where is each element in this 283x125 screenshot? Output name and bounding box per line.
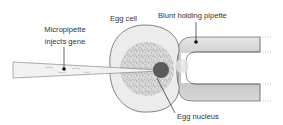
egg-nucleus-label: Egg nucleus: [177, 112, 219, 121]
holding-pipette: [178, 37, 272, 101]
holding-pipette-label: Blunt holding pipette: [158, 11, 227, 20]
egg-cell-label: Egg cell: [110, 14, 137, 23]
micropipette-label-line1: Micropipette: [36, 25, 94, 34]
micropipette-label: Micropipette injects gene: [36, 25, 94, 46]
micropipette-label-line2: injects gene: [36, 37, 94, 46]
microinjection-diagram: [0, 0, 283, 125]
egg-nucleus: [153, 62, 169, 78]
